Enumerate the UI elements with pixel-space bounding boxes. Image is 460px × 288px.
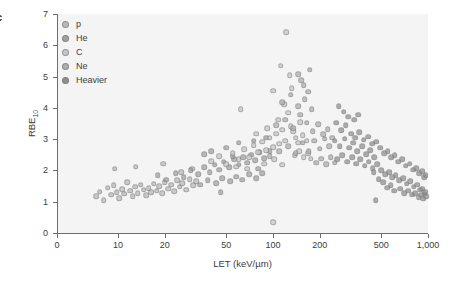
x-tick-50 (226, 234, 227, 238)
scatter-point (323, 161, 329, 167)
scatter-point (357, 157, 363, 163)
scatter-point (244, 166, 250, 172)
legend-item-ne[interactable]: Ne (62, 61, 107, 72)
scatter-point (374, 139, 380, 145)
scatter-point (284, 29, 290, 35)
x-tick-100 (273, 234, 274, 238)
legend: pHeCNeHeavier (62, 19, 107, 86)
x-axis-label-text: LET (keV/µm) (213, 258, 272, 269)
legend-item-c[interactable]: C (62, 47, 107, 58)
scatter-point (333, 120, 339, 126)
scatter-point (278, 63, 284, 69)
y-axis-label: RBE10 (26, 14, 39, 233)
x-tick-1000 (428, 234, 429, 238)
scatter-point (350, 154, 356, 160)
scatter-point (342, 136, 348, 142)
scatter-point (351, 140, 357, 146)
y-axis-label-subscript: 10 (32, 110, 39, 118)
scatter-point (298, 112, 304, 118)
scatter-point (196, 171, 202, 177)
scatter-point (353, 135, 359, 141)
scatter-point (399, 157, 405, 163)
scatter-point (198, 182, 204, 188)
scatter-point (421, 196, 427, 202)
legend-marker-circle-icon (62, 35, 69, 42)
x-tick-label-10: 10 (113, 240, 123, 250)
scatter-point (105, 185, 111, 191)
legend-item-he[interactable]: He (62, 33, 107, 44)
scatter-point (180, 180, 186, 186)
scatter-point (355, 148, 361, 154)
scatter-point (295, 71, 301, 77)
scatter-point (244, 160, 250, 166)
scatter-point (301, 83, 307, 89)
legend-label: He (76, 34, 88, 43)
x-tick-500 (381, 234, 382, 238)
scatter-point (272, 157, 278, 163)
scatter-point (373, 197, 379, 203)
legend-label: Heavier (76, 76, 107, 85)
panel-letter-label: c (0, 12, 2, 23)
scatter-point (290, 125, 296, 131)
scatter-point (159, 190, 165, 196)
scatter-point (155, 172, 161, 178)
scatter-point (345, 114, 351, 120)
scatter-point (164, 177, 170, 183)
scatter-point (267, 135, 273, 141)
scatter-point (267, 154, 273, 160)
x-tick-label-200: 200 (312, 240, 327, 250)
scatter-point (253, 131, 259, 137)
scatter-point (160, 161, 166, 167)
scatter-point (216, 167, 222, 173)
scatter-point (336, 103, 342, 109)
scatter-point (238, 107, 244, 113)
scatter-point (274, 131, 280, 137)
scatter-point (288, 92, 294, 98)
scatter-point (422, 189, 428, 195)
scatter-point (270, 88, 276, 94)
x-tick-label-100: 100 (266, 240, 281, 250)
scatter-point (391, 188, 397, 194)
scatter-point (205, 178, 211, 184)
x-tick-0 (57, 234, 58, 238)
scatter-point (337, 143, 343, 149)
scatter-point (319, 156, 325, 162)
scatter-point (255, 149, 261, 155)
scatter-point (188, 168, 194, 174)
legend-label: Ne (76, 62, 88, 71)
scatter-point (236, 140, 242, 146)
scatter-point (122, 191, 128, 197)
scatter-point (309, 107, 315, 113)
scatter-point (374, 161, 380, 167)
legend-item-p[interactable]: p (62, 19, 107, 30)
scatter-point (227, 179, 233, 185)
scatter-point (230, 150, 236, 156)
x-tick-label-20: 20 (160, 240, 170, 250)
scatter-point (209, 158, 215, 164)
legend-marker-circle-icon (62, 49, 69, 56)
scatter-point (171, 189, 177, 195)
legend-marker-circle-icon (62, 77, 69, 84)
scatter-point (277, 141, 283, 147)
scatter-point (355, 112, 361, 118)
scatter-point (302, 96, 308, 102)
scatter-point (234, 164, 240, 170)
scatter-point (423, 172, 429, 178)
x-axis-line (57, 233, 428, 234)
y-tick-5 (53, 77, 57, 78)
scatter-point (285, 110, 291, 116)
y-tick-7 (53, 14, 57, 15)
x-tick-200 (320, 234, 321, 238)
scatter-point (306, 148, 312, 154)
scatter-point (270, 144, 276, 150)
scatter-point (344, 159, 350, 165)
scatter-point (253, 175, 259, 181)
scatter-point (187, 176, 193, 182)
scatter-point (371, 154, 377, 160)
scatter-point (352, 117, 358, 123)
legend-item-heavier[interactable]: Heavier (62, 75, 107, 86)
scatter-point (213, 180, 219, 186)
x-tick-label-1000: 1,000 (417, 240, 440, 250)
scatter-point (368, 147, 374, 153)
figure-panel: c 01020501002005001,000 01234567 LET (ke… (0, 0, 460, 288)
